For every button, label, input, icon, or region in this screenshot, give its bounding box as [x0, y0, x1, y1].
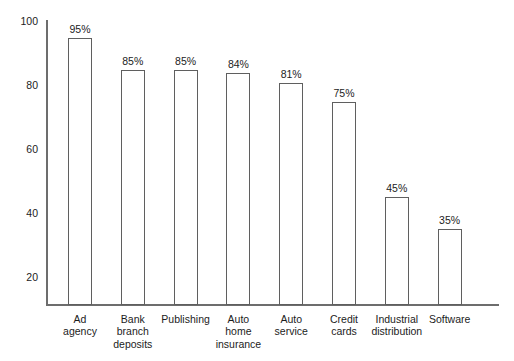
x-category-label: Software — [416, 313, 484, 325]
y-tick-label: 100 — [8, 16, 38, 27]
y-tick-label: 80 — [8, 80, 38, 91]
bar[interactable] — [226, 73, 250, 305]
bar[interactable] — [332, 102, 356, 305]
chart-page: 100 80 60 40 20 95% 85% 85% 84% 81% 75% … — [0, 0, 514, 361]
bar-value-label: 85% — [161, 56, 211, 67]
bar-value-label: 95% — [55, 24, 105, 35]
bar-value-label: 45% — [372, 183, 422, 194]
bar-chart: 100 80 60 40 20 95% 85% 85% 84% 81% 75% … — [0, 0, 514, 361]
bar[interactable] — [174, 70, 198, 305]
x-axis-line — [46, 304, 499, 306]
bar[interactable] — [385, 197, 409, 305]
y-tick-label: 20 — [8, 272, 38, 283]
y-tick-label: 60 — [8, 144, 38, 155]
bar[interactable] — [438, 229, 462, 305]
y-axis-line — [46, 20, 48, 306]
bar-value-label: 35% — [425, 215, 475, 226]
bar-value-label: 84% — [213, 59, 263, 70]
bar[interactable] — [68, 38, 92, 305]
bar-value-label: 81% — [266, 69, 316, 80]
y-tick-label: 40 — [8, 208, 38, 219]
bar-value-label: 75% — [319, 88, 369, 99]
bar[interactable] — [121, 70, 145, 305]
bar-value-label: 85% — [108, 56, 158, 67]
bar[interactable] — [279, 83, 303, 305]
